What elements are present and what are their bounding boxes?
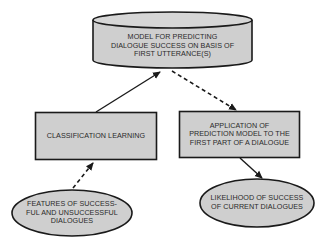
edge-classification-to-model: [96, 72, 160, 112]
flow-diagram: MODEL FOR PREDICTING DIALOGUE SUCCESS ON…: [0, 0, 336, 244]
model-label: MODEL FOR PREDICTING DIALOGUE SUCCESS ON…: [95, 30, 250, 62]
classification-label: CLASSIFICATION LEARNING: [37, 114, 155, 158]
features-label: FEATURES OF SUCCESS- FUL AND UNSUCCESSFU…: [14, 196, 130, 230]
edge-features-to-classification: [73, 163, 93, 188]
application-label: APPLICATION OF PREDICTION MODEL TO THE F…: [181, 113, 298, 156]
edge-model-to-application: [172, 71, 236, 110]
likelihood-label: LIKELIHOOD OF SUCCESS OF CURRENT DIALOGU…: [203, 190, 311, 216]
edge-application-to-likelihood: [240, 158, 262, 178]
